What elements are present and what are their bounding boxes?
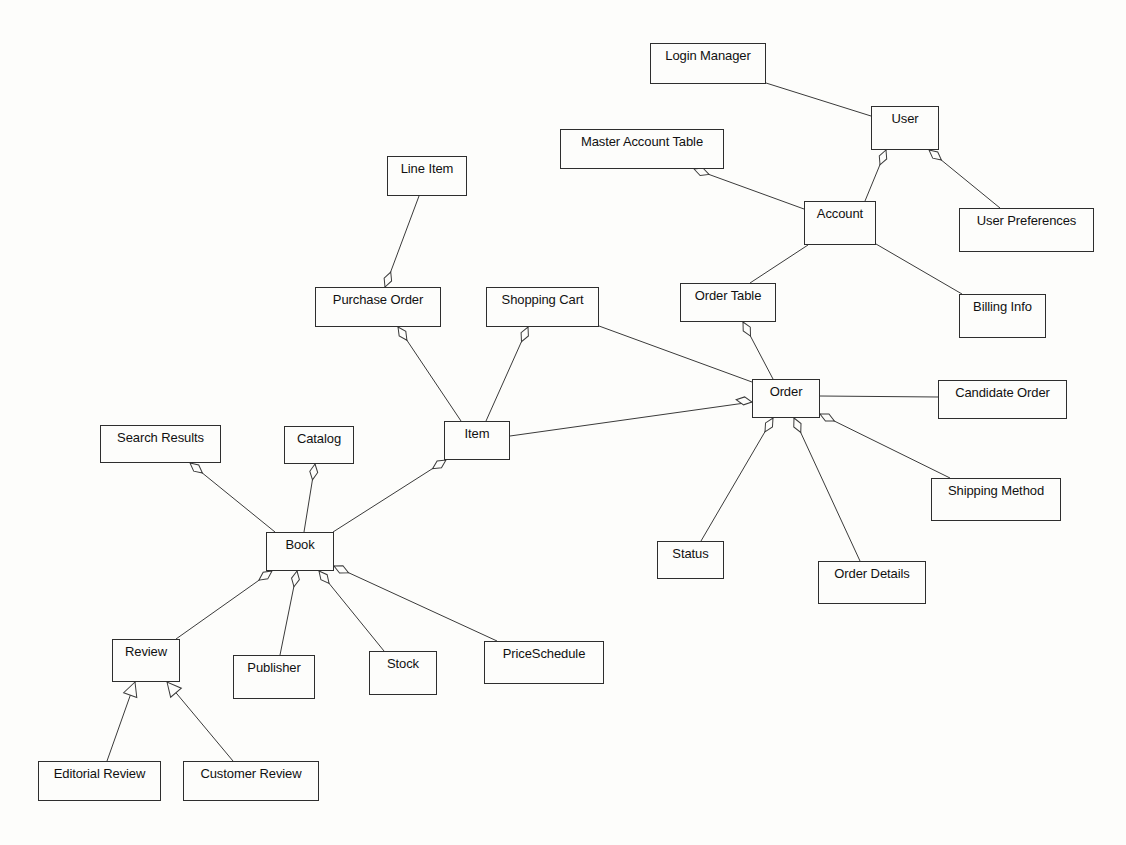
aggregation-diamond-icon — [518, 325, 532, 343]
class-box-line-item[interactable]: Line Item — [387, 156, 467, 196]
class-name: User — [872, 111, 938, 126]
class-box-billing-info[interactable]: Billing Info — [959, 294, 1046, 338]
class-name: Publisher — [234, 660, 314, 675]
class-name: Status — [658, 546, 723, 561]
class-name: Purchase Order — [316, 292, 440, 307]
aggregation-diamond-icon — [876, 149, 889, 167]
class-box-editorial-review[interactable]: Editorial Review — [38, 761, 161, 801]
class-name: Search Results — [101, 430, 220, 445]
class-name: Book — [267, 537, 333, 552]
class-box-customer-review[interactable]: Customer Review — [183, 761, 319, 801]
relationship-line-order-shipping-method — [820, 414, 950, 478]
class-name: Catalog — [285, 431, 353, 446]
class-name: Shipping Method — [932, 483, 1060, 498]
class-box-candidate-order[interactable]: Candidate Order — [938, 380, 1067, 419]
class-name: Master Account Table — [561, 134, 723, 149]
relationship-line-customer-review-review — [167, 682, 233, 761]
class-box-shipping-method[interactable]: Shipping Method — [931, 478, 1061, 521]
class-name: Account — [805, 206, 875, 221]
generalization-arrow-icon — [124, 680, 142, 698]
class-box-order-table[interactable]: Order Table — [680, 283, 776, 322]
class-name: User Preferences — [960, 213, 1093, 228]
relationship-line-order-candidate-order — [820, 396, 938, 397]
class-name: Order Details — [819, 566, 925, 581]
class-box-publisher[interactable]: Publisher — [233, 655, 315, 699]
relationship-line-item-order — [510, 402, 752, 436]
class-box-book[interactable]: Book — [266, 532, 334, 571]
class-name: Customer Review — [184, 766, 318, 781]
class-name: Editorial Review — [39, 766, 160, 781]
class-name: Order Table — [681, 288, 775, 303]
class-name: Order — [753, 384, 819, 399]
aggregation-diamond-icon — [316, 568, 332, 585]
relationship-line-login-manager-user — [766, 83, 871, 116]
class-box-login-manager[interactable]: Login Manager — [650, 43, 766, 84]
relationship-line-account-order-table — [750, 245, 808, 283]
class-box-catalog[interactable]: Catalog — [284, 426, 354, 464]
class-box-shopping-cart[interactable]: Shopping Cart — [486, 287, 599, 327]
relationship-line-account-billing-info — [876, 244, 962, 294]
class-name: Login Manager — [651, 48, 765, 63]
uml-class-diagram — [0, 0, 1126, 845]
aggregation-diamond-icon — [309, 463, 319, 480]
class-name: Line Item — [388, 161, 466, 176]
class-name: Candidate Order — [939, 385, 1066, 400]
class-name: Billing Info — [960, 299, 1045, 314]
class-box-order[interactable]: Order — [752, 379, 820, 418]
relationship-line-order-order-details — [794, 418, 860, 561]
relationship-line-master-account-table-account — [694, 169, 804, 209]
relationship-line-order-status — [701, 418, 773, 541]
class-box-stock[interactable]: Stock — [369, 651, 437, 695]
class-name: Shopping Cart — [487, 292, 598, 307]
class-box-review[interactable]: Review — [112, 639, 180, 682]
class-name: Item — [445, 426, 509, 441]
relationship-line-book-review — [176, 571, 272, 639]
class-box-search-results[interactable]: Search Results — [100, 425, 221, 463]
class-name: Review — [113, 644, 179, 659]
class-box-user[interactable]: User — [871, 106, 939, 150]
relationship-line-book-price-schedule — [334, 566, 497, 641]
aggregation-diamond-icon — [381, 271, 394, 289]
class-box-master-account-table[interactable]: Master Account Table — [560, 129, 724, 169]
class-box-order-details[interactable]: Order Details — [818, 561, 926, 604]
aggregation-diamond-icon — [395, 325, 411, 343]
class-box-status[interactable]: Status — [657, 541, 724, 579]
class-box-account[interactable]: Account — [804, 201, 876, 245]
aggregation-diamond-icon — [818, 410, 836, 424]
class-box-purchase-order[interactable]: Purchase Order — [315, 287, 441, 327]
aggregation-diamond-icon — [739, 320, 754, 338]
class-box-price-schedule[interactable]: PriceSchedule — [484, 641, 604, 684]
aggregation-diamond-icon — [762, 416, 777, 434]
class-box-user-preferences[interactable]: User Preferences — [959, 208, 1094, 252]
aggregation-diamond-icon — [790, 416, 804, 434]
relationship-line-shopping-cart-order — [599, 326, 752, 382]
relationship-line-item-book — [333, 460, 446, 532]
class-name: PriceSchedule — [485, 646, 603, 661]
aggregation-diamond-icon — [332, 562, 350, 576]
class-name: Stock — [370, 656, 436, 671]
aggregation-diamond-icon — [290, 570, 301, 587]
class-box-item[interactable]: Item — [444, 421, 510, 460]
